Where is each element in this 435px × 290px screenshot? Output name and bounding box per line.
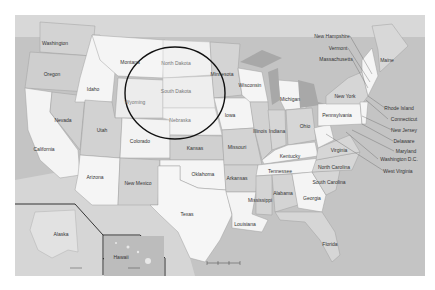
state-label-nebraska: Nebraska bbox=[169, 118, 190, 123]
state-label-georgia: Georgia bbox=[303, 196, 321, 201]
state-label-washington-d-c: Washington D.C. bbox=[380, 157, 418, 162]
state-label-delaware: Delaware bbox=[393, 139, 414, 144]
state-label-colorado: Colorado bbox=[130, 139, 150, 144]
state-mississippi bbox=[256, 175, 272, 215]
state-label-iowa: Iowa bbox=[225, 113, 236, 118]
state-label-nevada: Nevada bbox=[54, 118, 71, 123]
state-label-mississippi: Mississippi bbox=[248, 198, 272, 203]
state-label-arizona: Arizona bbox=[87, 175, 104, 180]
state-label-south-carolina: South Carolina bbox=[312, 180, 345, 185]
state-label-connecticut: Connecticut bbox=[391, 117, 417, 122]
state-label-washington: Washington bbox=[42, 41, 68, 46]
state-label-minnesota: Minnesota bbox=[210, 72, 233, 77]
state-label-new-york: New York bbox=[334, 94, 355, 99]
state-label-michigan: Michigan bbox=[280, 97, 300, 102]
state-label-florida: Florida bbox=[322, 242, 337, 247]
state-label-rhode-island: Rhode Island bbox=[384, 106, 413, 111]
state-label-kentucky: Kentucky bbox=[280, 154, 301, 159]
state-label-virginia: Virginia bbox=[331, 148, 348, 153]
state-label-illinois: Illinois bbox=[253, 129, 267, 134]
state-label-new-mexico: New Mexico bbox=[124, 181, 151, 186]
state-label-tennessee: Tennessee bbox=[268, 169, 292, 174]
state-label-arkansas: Arkansas bbox=[227, 176, 248, 181]
state-label-north-dakota: North Dakota bbox=[161, 61, 190, 66]
state-label-alaska: Alaska bbox=[53, 232, 68, 237]
state-label-pennsylvania: Pennsylvania bbox=[322, 113, 352, 118]
state-label-missouri: Missouri bbox=[228, 145, 247, 150]
state-label-vermont: Vermont bbox=[329, 46, 348, 51]
state-label-new-hampshire: New Hampshire bbox=[314, 34, 350, 39]
state-label-oklahoma: Oklahoma bbox=[192, 172, 215, 177]
state-label-maryland: Maryland bbox=[396, 149, 417, 154]
state-label-ohio: Ohio bbox=[300, 124, 311, 129]
state-label-california: California bbox=[33, 147, 54, 152]
state-label-south-dakota: South Dakota bbox=[161, 89, 191, 94]
state-label-new-jersey: New Jersey bbox=[391, 128, 417, 133]
state-label-montana: Montana bbox=[120, 60, 139, 65]
state-label-wyoming: Wyoming bbox=[125, 100, 146, 105]
state-label-maine: Maine bbox=[380, 58, 394, 63]
state-label-hawaii: Hawaii bbox=[113, 255, 128, 260]
state-label-louisiana: Louisiana bbox=[234, 222, 255, 227]
state-label-alabama: Alabama bbox=[273, 191, 293, 196]
state-label-massachusetts: Massachusetts bbox=[319, 57, 352, 62]
state-label-kansas: Kansas bbox=[187, 146, 204, 151]
state-label-texas: Texas bbox=[180, 212, 193, 217]
state-label-north-carolina: North Carolina bbox=[318, 165, 350, 170]
state-label-oregon: Oregon bbox=[44, 72, 61, 77]
state-label-idaho: Idaho bbox=[87, 87, 100, 92]
state-label-west-virginia: West Virginia bbox=[383, 169, 412, 174]
state-label-indiana: Indiana bbox=[269, 129, 285, 134]
state-label-utah: Utah bbox=[97, 128, 108, 133]
state-label-wisconsin: Wisconsin bbox=[239, 83, 262, 88]
